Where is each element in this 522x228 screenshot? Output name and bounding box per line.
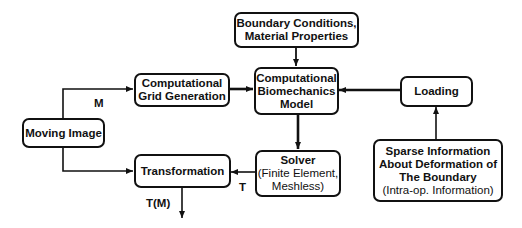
transformation-node: Transformation — [134, 154, 231, 188]
node-text: About Deformation of — [379, 158, 497, 171]
boundary-conditions-node: Boundary Conditions, Material Properties — [234, 12, 359, 48]
node-text: Computational — [142, 77, 223, 90]
solver-node: Solver (Finite Element, Meshless) — [255, 150, 341, 197]
sparse-information-node: Sparse Information About Deformation of … — [373, 139, 503, 202]
node-text: Model — [280, 98, 313, 111]
edge-label-m: M — [94, 97, 104, 109]
edge-moving-to-transformation — [63, 147, 133, 171]
loading-node: Loading — [400, 76, 473, 107]
edge-label-t: T — [239, 181, 246, 193]
node-text: Boundary Conditions, — [236, 17, 356, 30]
node-text: Moving Image — [25, 127, 102, 140]
node-text: Grid Generation — [138, 90, 226, 103]
node-text: The Boundary — [399, 171, 476, 184]
biomechanics-model-node: Computational Biomechanics Model — [254, 67, 339, 115]
node-text: Solver — [280, 154, 315, 167]
node-text: Material Properties — [245, 30, 349, 43]
node-text: Biomechanics — [258, 85, 336, 98]
node-subtext: (Finite Element, — [258, 167, 339, 180]
node-text: Loading — [414, 85, 459, 98]
grid-generation-node: Computational Grid Generation — [134, 73, 230, 107]
node-subtext: (Intra-op. Information) — [382, 184, 493, 197]
node-text: Transformation — [141, 165, 225, 178]
moving-image-node: Moving Image — [22, 118, 105, 148]
edge-label-tm: T(M) — [146, 197, 170, 209]
node-text: Computational — [256, 72, 337, 85]
node-subtext: Meshless) — [272, 180, 324, 193]
node-text: Sparse Information — [386, 145, 491, 158]
